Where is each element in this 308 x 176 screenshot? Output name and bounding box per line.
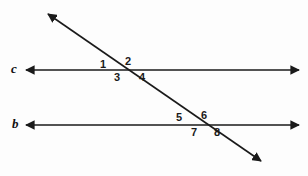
angle-label-4: 4 — [139, 72, 145, 83]
angle-label-3: 3 — [114, 72, 120, 83]
geometry-figure: c b 1 2 3 4 5 6 7 8 — [0, 0, 308, 176]
angle-label-5: 5 — [176, 112, 182, 123]
angle-label-6: 6 — [201, 110, 207, 121]
angle-label-1: 1 — [100, 59, 106, 70]
line-label-c: c — [11, 62, 17, 75]
line-transversal — [48, 14, 261, 161]
angle-label-8: 8 — [214, 127, 220, 138]
geometry-canvas — [0, 0, 308, 176]
angle-label-2: 2 — [125, 56, 131, 67]
line-label-b: b — [12, 117, 19, 130]
angle-label-7: 7 — [191, 127, 197, 138]
